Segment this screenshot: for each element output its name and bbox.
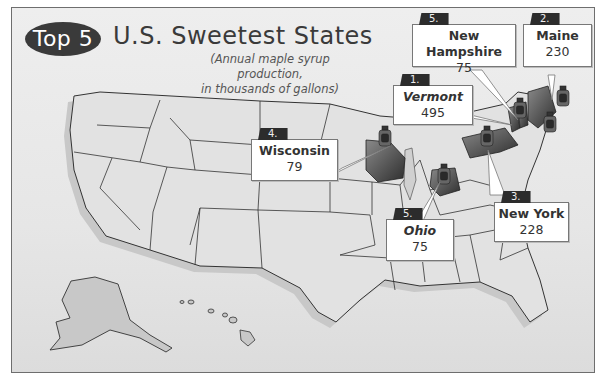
rank-tab: 5. [393, 208, 423, 220]
callout-new-hampshire: 5. New Hampshire 75 [412, 24, 516, 67]
state-hawaii [180, 300, 255, 346]
rank-tab: 4. [258, 128, 288, 140]
state-name: New Hampshire [413, 28, 515, 60]
syrup-bottle-icon [557, 86, 569, 106]
chart-subtitle: (Annual maple syrup production, in thous… [180, 52, 360, 97]
state-value: 228 [495, 222, 568, 237]
state-value: 79 [252, 159, 337, 174]
callout-maine: 2. Maine 230 [523, 24, 592, 67]
top5-badge: Top 5 [25, 22, 101, 56]
state-value: 495 [394, 105, 472, 120]
state-name: New York [495, 206, 568, 222]
state-name: Maine [524, 28, 591, 44]
rank-tab: 1. [400, 74, 430, 86]
chart-title: U.S. Sweetest States [113, 22, 373, 50]
callout-new-york: 3. New York 228 [494, 202, 569, 242]
callout-ohio: 5. Ohio 75 [386, 219, 454, 261]
state-alaska [50, 277, 172, 352]
rank-tab: 3. [501, 191, 531, 203]
callout-vermont: 1. Vermont 495 [393, 85, 473, 125]
rank-tab: 5. [419, 13, 449, 25]
state-name: Vermont [394, 89, 472, 105]
state-value: 75 [413, 60, 515, 75]
state-value: 230 [524, 44, 591, 59]
callout-wisconsin: 4. Wisconsin 79 [251, 139, 338, 181]
rank-tab: 2. [530, 13, 560, 25]
state-value: 75 [387, 239, 453, 254]
state-name: Wisconsin [252, 143, 337, 159]
state-name: Ohio [387, 223, 453, 239]
